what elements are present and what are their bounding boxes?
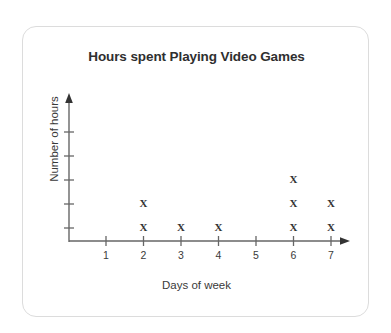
data-point-marker: X (287, 196, 301, 210)
data-point-marker: X (324, 196, 338, 210)
screenshot-canvas: Hours spent Playing Video Games 1234567 … (0, 0, 391, 333)
data-point-marker: X (324, 220, 338, 234)
x-axis-group (69, 236, 350, 246)
plot-area: 1234567 XXXXXXXXX Number of hours Days o… (23, 27, 370, 318)
x-tick-label: 5 (246, 249, 266, 261)
x-axis-arrow-icon (340, 237, 350, 245)
data-point-marker: X (287, 220, 301, 234)
x-axis-label: Days of week (23, 279, 370, 291)
x-tick-label: 4 (209, 249, 229, 261)
y-axis-label: Number of hours (48, 79, 60, 199)
x-tick-label: 6 (284, 249, 304, 261)
x-tick-label: 7 (321, 249, 341, 261)
data-point-marker: X (287, 172, 301, 186)
y-axis-arrow-icon (65, 93, 73, 103)
axes-svg (23, 27, 370, 318)
data-point-marker: X (174, 220, 188, 234)
data-point-marker: X (137, 196, 151, 210)
x-tick-label: 2 (134, 249, 154, 261)
x-tick-label: 1 (96, 249, 116, 261)
x-tick-label: 3 (171, 249, 191, 261)
data-point-marker: X (137, 220, 151, 234)
y-axis-group (64, 93, 74, 242)
chart-card: Hours spent Playing Video Games 1234567 … (22, 26, 369, 317)
data-point-marker: X (212, 220, 226, 234)
